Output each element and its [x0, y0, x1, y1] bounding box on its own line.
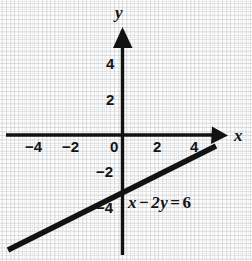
x-tick-label-2: 2 — [153, 139, 161, 154]
y-tick-label-neg4: −4 — [96, 200, 113, 215]
y-tick-label-neg2: −2 — [96, 164, 113, 179]
x-tick-label-4: 4 — [190, 139, 198, 154]
x-tick-label-neg2: −2 — [62, 139, 79, 154]
x-tick-label-neg4: −4 — [25, 139, 42, 154]
equation-rhs-6: 6 — [182, 193, 191, 212]
graph-figure: y x 0 −4 −2 2 4 4 2 −2 −4 x−2y=6 — [0, 0, 252, 261]
equation-term-x: x — [128, 193, 137, 212]
equation-term-2y: 2y — [151, 193, 168, 212]
axes-and-line-layer — [0, 0, 252, 261]
x-axis-arrowhead — [211, 127, 228, 145]
equation-annotation: x−2y=6 — [128, 193, 191, 213]
y-axis-label: y — [115, 4, 123, 21]
equation-minus-sign: − — [137, 193, 151, 212]
y-axis-arrowhead — [113, 27, 133, 48]
y-tick-label-2: 2 — [106, 92, 114, 107]
equation-equals-sign: = — [168, 193, 182, 212]
y-tick-label-4: 4 — [106, 56, 114, 71]
origin-tick-label: 0 — [110, 139, 118, 154]
x-axis-label: x — [234, 127, 243, 144]
